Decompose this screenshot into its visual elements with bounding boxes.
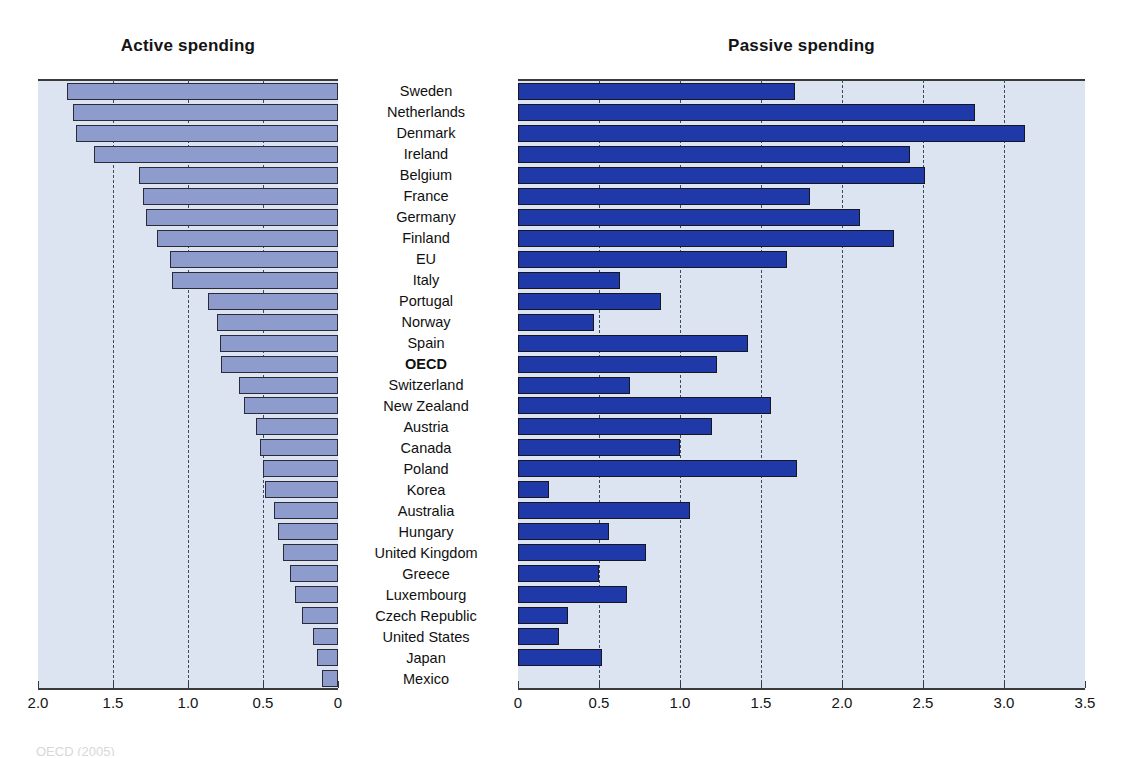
bar-active [170,251,338,268]
bar-active [256,418,339,435]
bar-active [221,356,338,373]
bar-passive [518,188,810,205]
passive-bottom-axis-rule [518,688,1085,690]
category-label-united-states: United States [340,630,512,644]
axis-tick-label: 2.0 [812,694,872,711]
axis-tick [1004,681,1005,688]
axis-tick [923,681,924,688]
bar-passive [518,251,787,268]
category-label-korea: Korea [340,483,512,497]
bar-active [76,125,339,142]
bar-passive [518,439,680,456]
bar-passive [518,586,627,603]
category-label-new-zealand: New Zealand [340,399,512,413]
bar-passive [518,230,894,247]
category-label-hungary: Hungary [340,525,512,539]
axis-tick [761,681,762,688]
active-bottom-axis-rule [38,688,338,690]
bar-active [244,397,339,414]
bar-active [94,146,339,163]
bar-active [322,670,339,687]
bar-active [239,377,338,394]
axis-tick-label: 0.5 [569,694,629,711]
axis-tick-label: 1.5 [83,694,143,711]
bar-active [274,502,339,519]
axis-tick-label: 1.0 [158,694,218,711]
passive-panel-title: Passive spending [518,36,1085,56]
bar-passive [518,314,594,331]
bar-active [313,628,339,645]
category-label-sweden: Sweden [340,84,512,98]
bar-passive [518,209,860,226]
bar-active [73,104,339,121]
category-label-denmark: Denmark [340,126,512,140]
category-label-oecd: OECD [340,357,512,371]
bar-active [290,565,338,582]
bar-active [265,481,339,498]
bar-active [260,439,338,456]
axis-tick-label: 3.5 [1055,694,1115,711]
axis-tick [842,681,843,688]
category-label-ireland: Ireland [340,147,512,161]
axis-tick [338,681,339,688]
bar-passive [518,335,748,352]
chart-figure: Active spending Passive spending 2.01.51… [0,0,1126,758]
bar-active [317,649,338,666]
bar-active [302,607,338,624]
category-label-mexico: Mexico [340,672,512,686]
axis-tick-label: 0.5 [233,694,293,711]
category-label-italy: Italy [340,273,512,287]
bar-passive [518,146,910,163]
bar-active [295,586,339,603]
bar-active [283,544,339,561]
category-label-poland: Poland [340,462,512,476]
bar-active [217,314,339,331]
gridline [113,80,114,688]
bar-passive [518,418,712,435]
category-label-australia: Australia [340,504,512,518]
category-label-eu: EU [340,252,512,266]
bar-active [263,460,338,477]
bar-passive [518,481,549,498]
bar-passive [518,544,646,561]
category-label-netherlands: Netherlands [340,105,512,119]
bar-passive [518,356,717,373]
axis-tick [38,681,39,688]
bar-passive [518,293,661,310]
gridline [1004,80,1005,688]
axis-tick-label: 2.0 [8,694,68,711]
bar-passive [518,83,795,100]
category-label-norway: Norway [340,315,512,329]
bar-passive [518,502,690,519]
category-label-czech-republic: Czech Republic [340,609,512,623]
bar-active [146,209,338,226]
bar-active [67,83,339,100]
bar-passive [518,649,602,666]
bar-passive [518,565,599,582]
active-panel-title: Active spending [38,36,338,56]
bar-passive [518,125,1025,142]
bar-passive [518,272,620,289]
axis-tick-label: 0 [488,694,548,711]
axis-tick-label: 1.5 [731,694,791,711]
axis-tick-label: 3.0 [974,694,1034,711]
bar-passive [518,523,609,540]
axis-tick [518,681,519,688]
axis-tick-label: 2.5 [893,694,953,711]
category-label-japan: Japan [340,651,512,665]
bar-passive [518,628,559,645]
axis-tick [113,681,114,688]
category-label-germany: Germany [340,210,512,224]
category-label-greece: Greece [340,567,512,581]
axis-tick [1085,681,1086,688]
category-label-luxembourg: Luxembourg [340,588,512,602]
axis-tick [263,681,264,688]
category-label-belgium: Belgium [340,168,512,182]
bar-active [157,230,339,247]
bar-passive [518,397,771,414]
axis-tick [599,681,600,688]
bar-active [172,272,339,289]
axis-tick-label: 1.0 [650,694,710,711]
category-label-united-kingdom: United Kingdom [340,546,512,560]
category-label-finland: Finland [340,231,512,245]
